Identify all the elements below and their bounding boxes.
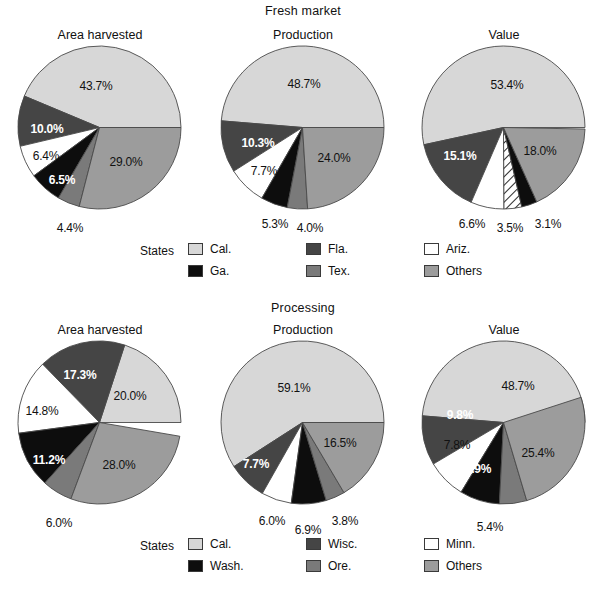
slice-percent-label: 3.5% (497, 222, 524, 234)
slice-percent-label: 7.8% (444, 439, 471, 451)
legend-swatch-icon (188, 560, 203, 572)
legend-item[interactable]: Minn. (424, 537, 542, 551)
legend-item-label: Ore. (328, 559, 351, 573)
slice-percent-label: 6.4% (33, 150, 60, 162)
slice-percent-label: 20.0% (113, 390, 146, 402)
legend-swatch-icon (306, 243, 321, 255)
slice-percent-label: 7.9% (465, 463, 492, 475)
legend-swatch-icon (306, 560, 321, 572)
legend-item-label: Others (446, 559, 482, 573)
legend-swatch-icon (424, 243, 439, 255)
chart-title: Value (404, 28, 604, 42)
legend-swatch-icon (188, 265, 203, 277)
legend-row: Wash. Ore. Others (188, 555, 568, 577)
pie-chart-figure: Fresh market Area harvested 43.7%10.0%6.… (0, 0, 606, 591)
slice-percent-label: 25.4% (521, 447, 554, 459)
legend-item-label: Wash. (210, 559, 244, 573)
pie-wrap: 48.7%9.8%7.8%7.9%5.4%25.4% (422, 341, 585, 504)
chart-cell: Production 59.1%7.7%6.0%6.9%3.8%16.5% (203, 323, 403, 523)
slice-percent-label: 28.0% (102, 459, 135, 471)
slice-percent-label: 10.0% (30, 123, 63, 135)
legend-item-label: Others (446, 264, 482, 278)
chart-title: Production (203, 323, 403, 337)
legend-item[interactable]: Wash. (188, 559, 306, 573)
slice-percent-label: 48.7% (501, 380, 534, 392)
legend-item-label: Ariz. (446, 242, 470, 256)
legend-swatch-icon (188, 243, 203, 255)
chart-title: Value (404, 323, 604, 337)
pie-svg (422, 46, 585, 209)
slice-percent-label: 6.5% (49, 174, 76, 186)
legend-row: Cal. Wisc. Minn. (188, 533, 568, 555)
pie-svg (18, 341, 181, 504)
chart-cell: Area harvested 20.0%17.3%14.8%11.2%6.0%2… (0, 323, 200, 523)
chart-title: Area harvested (0, 28, 200, 42)
chart-cell: Value 53.4%15.1%6.6%3.5%3.1%18.0% (404, 28, 604, 228)
pie-wrap: 20.0%17.3%14.8%11.2%6.0%28.0% (18, 341, 181, 504)
legend-swatch-icon (306, 538, 321, 550)
chart-cell: Production 48.7%10.3%7.7%5.3%4.0%24.0% (203, 28, 403, 228)
legend-item[interactable]: Fla. (306, 242, 424, 256)
legend-swatch-icon (424, 265, 439, 277)
slice-percent-label: 14.8% (25, 405, 58, 417)
legend-item-label: Fla. (328, 242, 348, 256)
legend-item-label: Ga. (210, 264, 229, 278)
legend-swatch-icon (188, 538, 203, 550)
slice-percent-label: 53.4% (490, 79, 523, 91)
pie-wrap: 43.7%10.0%6.4%6.5%4.4%29.0% (18, 46, 181, 209)
slice-percent-label: 7.7% (243, 458, 270, 470)
slice-percent-label: 6.0% (259, 515, 286, 527)
pie-svg (221, 341, 384, 504)
pie-slice[interactable] (303, 128, 385, 209)
legend-item[interactable]: Others (424, 559, 542, 573)
legend-item-label: Minn. (446, 537, 475, 551)
pie-wrap: 53.4%15.1%6.6%3.5%3.1%18.0% (422, 46, 585, 209)
legend-item[interactable]: Ore. (306, 559, 424, 573)
legend-swatch-icon (424, 538, 439, 550)
panel-title: Fresh market (0, 4, 606, 18)
legend-item[interactable]: Cal. (188, 242, 306, 256)
slice-percent-label: 17.3% (63, 369, 96, 381)
legend-item[interactable]: Tex. (306, 264, 424, 278)
legend-title: States (140, 244, 174, 258)
slice-percent-label: 43.7% (79, 80, 112, 92)
slice-percent-label: 6.0% (46, 517, 73, 529)
slice-percent-label: 29.0% (109, 156, 142, 168)
slice-percent-label: 9.8% (447, 409, 474, 421)
legend-grid: Cal. Fla. Ariz. Ga. Tex. Others (188, 238, 568, 282)
legend-item-label: Tex. (328, 264, 350, 278)
legend-item[interactable]: Cal. (188, 537, 306, 551)
legend-item[interactable]: Others (424, 264, 542, 278)
slice-percent-label: 5.4% (477, 521, 504, 533)
slice-percent-label: 10.3% (241, 137, 274, 149)
slice-percent-label: 16.5% (323, 437, 356, 449)
chart-cell: Area harvested 43.7%10.0%6.4%6.5%4.4%29.… (0, 28, 200, 228)
legend-item[interactable]: Ariz. (424, 242, 542, 256)
slice-percent-label: 11.2% (33, 454, 65, 466)
legend-swatch-icon (424, 560, 439, 572)
slice-percent-label: 15.1% (443, 150, 476, 162)
legend-item[interactable]: Ga. (188, 264, 306, 278)
slice-percent-label: 6.6% (459, 218, 486, 230)
legend-title: States (140, 539, 174, 553)
slice-percent-label: 4.4% (57, 222, 84, 234)
legend-grid: Cal. Wisc. Minn. Wash. Ore. Others (188, 533, 568, 577)
legend-swatch-icon (306, 265, 321, 277)
slice-percent-label: 3.1% (535, 218, 562, 230)
legend-item[interactable]: Wisc. (306, 537, 424, 551)
chart-title: Area harvested (0, 323, 200, 337)
slice-percent-label: 3.8% (332, 515, 359, 527)
slice-percent-label: 5.3% (262, 218, 289, 230)
legend-item-label: Cal. (210, 242, 231, 256)
slice-percent-label: 59.1% (277, 382, 310, 394)
slice-percent-label: 48.7% (287, 78, 320, 90)
slice-percent-label: 7.7% (251, 165, 278, 177)
slice-percent-label: 18.0% (523, 145, 556, 157)
slice-percent-label: 24.0% (317, 152, 350, 164)
chart-cell: Value 48.7%9.8%7.8%7.9%5.4%25.4% (404, 323, 604, 523)
pie-wrap: 48.7%10.3%7.7%5.3%4.0%24.0% (221, 46, 384, 209)
chart-panel: Processing Area harvested 20.0%17.3%14.8… (0, 295, 606, 591)
pie-svg (221, 46, 384, 209)
chart-title: Production (203, 28, 403, 42)
pie-wrap: 59.1%7.7%6.0%6.9%3.8%16.5% (221, 341, 384, 504)
